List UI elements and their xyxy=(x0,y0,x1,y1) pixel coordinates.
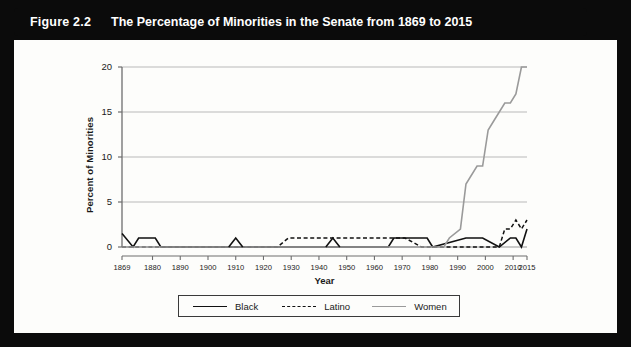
x-axis-label: Year xyxy=(122,275,527,286)
legend-item-latino: Latino xyxy=(282,301,350,312)
legend-label: Black xyxy=(235,301,258,312)
chart-plot-area: Percent of Minorities Year 05101520 1869… xyxy=(0,0,631,347)
x-tick-label: 1900 xyxy=(200,263,217,272)
x-tick-label: 1940 xyxy=(310,263,327,272)
legend-item-black: Black xyxy=(193,301,258,312)
x-tick-label: 1930 xyxy=(283,263,300,272)
legend-label: Women xyxy=(414,301,447,312)
gray-line-swatch-icon xyxy=(372,301,406,311)
y-tick-label: 5 xyxy=(90,196,112,207)
x-tick-label: 1880 xyxy=(144,263,161,272)
line-swatch-icon xyxy=(193,301,227,311)
x-tick-label: 1990 xyxy=(449,263,466,272)
x-tick-label: 2015 xyxy=(519,263,536,272)
legend-label: Latino xyxy=(324,301,350,312)
x-tick-label: 1970 xyxy=(394,263,411,272)
x-tick-label: 1960 xyxy=(366,263,383,272)
y-tick-label: 20 xyxy=(90,61,112,72)
legend-item-women: Women xyxy=(372,301,447,312)
x-tick-label: 1910 xyxy=(227,263,244,272)
dashed-line-swatch-icon xyxy=(282,301,316,311)
x-tick-label: 1869 xyxy=(114,263,131,272)
series-line-latino xyxy=(122,220,527,247)
series-spike-black xyxy=(229,238,243,247)
x-tick-label: 1980 xyxy=(421,263,438,272)
series-spike-black xyxy=(326,238,340,247)
chart-legend: Black Latino Women xyxy=(178,295,460,317)
gridlines xyxy=(122,67,527,247)
x-tick-label: 2000 xyxy=(477,263,494,272)
y-tick-label: 10 xyxy=(90,151,112,162)
y-tick-label: 0 xyxy=(90,241,112,252)
x-tick-label: 1950 xyxy=(338,263,355,272)
y-tick-label: 15 xyxy=(90,106,112,117)
x-tick-label: 1890 xyxy=(172,263,189,272)
axes xyxy=(118,67,527,256)
x-tick-label: 1920 xyxy=(255,263,272,272)
